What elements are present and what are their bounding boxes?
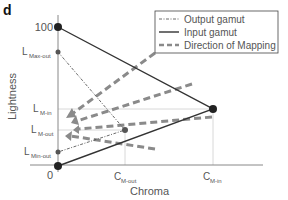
point-lmax-out bbox=[56, 50, 61, 55]
point-100 bbox=[54, 23, 62, 31]
point-lmin-out bbox=[56, 150, 61, 155]
ytick-0: 0 bbox=[47, 169, 53, 181]
legend: Output gamut Input gamut Direction of Ma… bbox=[155, 11, 278, 53]
point-cusp-input bbox=[209, 105, 217, 113]
point-cusp-output bbox=[122, 127, 128, 133]
svg-text:M-out: M-out bbox=[121, 178, 137, 184]
svg-text:L: L bbox=[31, 124, 37, 135]
svg-text:Max-out: Max-out bbox=[29, 53, 51, 59]
svg-text:M-in: M-in bbox=[40, 110, 52, 116]
y-axis-label: Lightness bbox=[6, 72, 18, 120]
ytick-lm-in: L M-in bbox=[33, 103, 52, 116]
panel-label: d bbox=[3, 2, 12, 18]
legend-label-mapping: Direction of Mapping bbox=[184, 40, 276, 51]
point-origin bbox=[54, 162, 62, 170]
svg-text:L: L bbox=[33, 103, 39, 114]
x-axis-label: Chroma bbox=[130, 185, 170, 197]
ytick-100: 100 bbox=[35, 21, 53, 33]
gamut-diagram: d 100 L Max-out L M-in L M-out L Min-out… bbox=[0, 0, 288, 200]
ytick-lmin-out: L Min-out bbox=[24, 146, 51, 159]
svg-text:L: L bbox=[22, 46, 28, 57]
legend-label-input: Input gamut bbox=[184, 27, 237, 38]
legend-label-output: Output gamut bbox=[184, 14, 245, 25]
svg-text:M-in: M-in bbox=[210, 178, 222, 184]
ytick-lm-out: L M-out bbox=[31, 124, 54, 137]
svg-text:L: L bbox=[24, 146, 30, 157]
xtick-cm-in: C M-in bbox=[203, 171, 222, 184]
svg-text:Min-out: Min-out bbox=[31, 153, 51, 159]
xtick-cm-out: C M-out bbox=[114, 171, 137, 184]
ytick-lmax-out: L Max-out bbox=[22, 46, 51, 59]
svg-text:M-out: M-out bbox=[38, 131, 54, 137]
